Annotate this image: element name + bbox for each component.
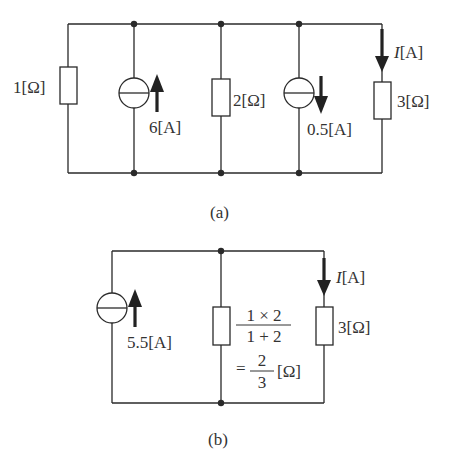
current-source-05a: [284, 78, 314, 108]
arrow-down-icon: [314, 76, 328, 114]
resistor-2-ohm: [212, 79, 230, 116]
current-source-6a: [119, 78, 149, 108]
node-dot: [218, 248, 224, 254]
r3-label: 3[Ω]: [338, 318, 370, 337]
svg-text:3: 3: [258, 373, 267, 392]
svg-text:2: 2: [258, 351, 267, 370]
arrow-up-icon: [150, 74, 164, 112]
current-i-label: I[A]: [393, 43, 423, 62]
source-55a-label: 5.5[A]: [127, 333, 172, 352]
svg-text:[Ω]: [Ω]: [277, 362, 301, 381]
node-dot: [296, 170, 302, 176]
node-dot: [218, 21, 224, 27]
svg-text:=: =: [236, 359, 246, 378]
source-6a-label: 6[A]: [149, 118, 181, 137]
resistor-equivalent: [213, 307, 230, 345]
svg-text:1 + 2: 1 + 2: [246, 327, 281, 346]
current-i-label: I[A]: [335, 268, 365, 287]
resistor-3-ohm: [316, 307, 333, 345]
caption-b: (b): [208, 430, 228, 449]
node-dot: [131, 21, 137, 27]
resistor-3-ohm: [374, 82, 391, 119]
circuit-b: 5.5[A] 1 × 2 1 + 2 = 2 3 [Ω] I[A] 3[Ω] (…: [97, 248, 370, 449]
r3-label: 3[Ω]: [397, 92, 429, 111]
equivalent-resistance-formula: 1 × 2 1 + 2 = 2 3 [Ω]: [236, 306, 301, 392]
resistor-1-ohm: [60, 67, 77, 104]
source-05a-label: 0.5[A]: [307, 120, 352, 139]
r2-label: 2[Ω]: [233, 91, 265, 110]
node-dot: [218, 400, 224, 406]
node-dot: [296, 21, 302, 27]
arrow-up-icon: [128, 289, 142, 327]
svg-text:1 × 2: 1 × 2: [246, 306, 281, 325]
circuit-diagrams: 1[Ω] 6[A] 2[Ω] 0.5[A]: [0, 0, 451, 469]
node-dot: [131, 170, 137, 176]
caption-a: (a): [210, 203, 229, 222]
r1-label: 1[Ω]: [13, 78, 45, 97]
circuit-a: 1[Ω] 6[A] 2[Ω] 0.5[A]: [13, 21, 429, 222]
arrow-down-icon: [317, 258, 331, 296]
node-dot: [218, 170, 224, 176]
current-source-55a: [97, 293, 127, 323]
arrow-down-icon: [375, 29, 389, 72]
